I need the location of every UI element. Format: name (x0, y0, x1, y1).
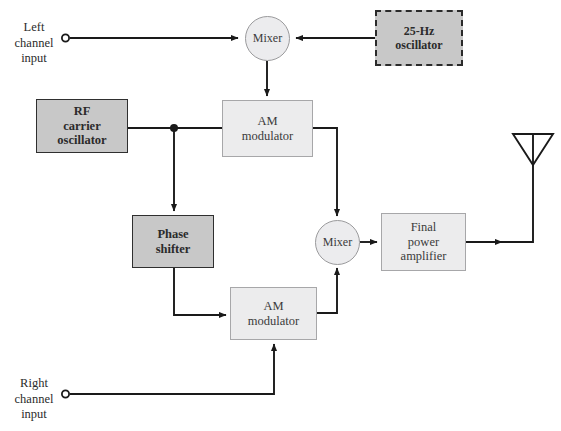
wire-am-mod-top-to-mixer-bottom (313, 128, 337, 216)
left-input-terminal (62, 34, 69, 41)
right-channel-input-label: Right channel input (6, 376, 62, 423)
am-modulator-top-block[interactable]: AM modulator (222, 100, 313, 157)
wiring-layer (0, 0, 561, 431)
final-power-amplifier-block[interactable]: Final power amplifier (381, 213, 466, 271)
antenna-icon (513, 134, 553, 165)
block-diagram-canvas: Left channel input Right channel input M… (0, 0, 561, 431)
oscillator-25hz-block[interactable]: 25-Hz oscillator (375, 10, 463, 66)
junction-dot (170, 124, 178, 132)
wire-am-mod-bottom-to-mixer (317, 268, 337, 313)
mixer-top-block[interactable]: Mixer (245, 16, 290, 61)
mixer-bottom-block[interactable]: Mixer (315, 220, 360, 265)
wire-phase-shifter-to-am-mod-bottom (174, 268, 226, 315)
am-modulator-bottom-block[interactable]: AM modulator (230, 287, 317, 340)
left-channel-input-label: Left channel input (6, 20, 62, 67)
wire-right-input-to-am-mod-bottom (70, 344, 274, 394)
wire-final-amp-to-antenna (466, 164, 533, 242)
phase-shifter-block[interactable]: Phase shifter (132, 215, 214, 268)
rf-carrier-oscillator-block[interactable]: RF carrier oscillator (36, 99, 128, 153)
right-input-terminal (62, 390, 69, 397)
